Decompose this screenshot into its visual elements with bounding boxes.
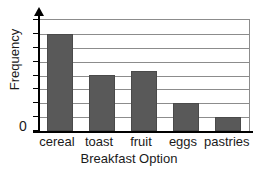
y-axis-tick	[33, 130, 39, 131]
x-axis-label: Breakfast Option	[0, 151, 258, 166]
plot-area	[39, 19, 250, 132]
y-axis-tick	[33, 75, 39, 76]
x-axis-tick-label-pastries: pastries	[204, 134, 246, 149]
x-axis-tick-label-eggs: eggs	[162, 134, 204, 149]
y-axis-tick-label-zero: 0	[19, 119, 27, 133]
y-axis-label: Frequency	[7, 5, 22, 115]
x-axis-tick-label-cereal: cereal	[36, 134, 78, 149]
bar-toast	[89, 75, 115, 131]
bar-cereal	[47, 34, 73, 131]
bar-eggs	[173, 103, 199, 131]
x-axis-line	[33, 131, 253, 133]
y-axis-tick	[33, 47, 39, 48]
bar-pastries	[215, 117, 241, 131]
y-axis-tick	[33, 88, 39, 89]
y-axis-tick	[33, 61, 39, 62]
bars-series	[39, 20, 249, 131]
y-axis-tick	[33, 116, 39, 117]
bar-fruit	[131, 71, 157, 131]
bar-chart-figure: Frequency 0 cerealtoastfruiteggspastries…	[0, 0, 258, 171]
y-axis-tick	[33, 33, 39, 34]
x-axis-tick-labels: cerealtoastfruiteggspastries	[36, 134, 254, 150]
y-axis-tick	[33, 19, 39, 20]
x-axis-tick-label-fruit: fruit	[120, 134, 162, 149]
y-axis-tick	[33, 102, 39, 103]
x-axis-tick-label-toast: toast	[78, 134, 120, 149]
